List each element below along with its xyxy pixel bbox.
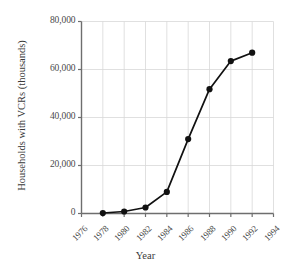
y-axis-tick-label: 60,000 <box>50 63 76 73</box>
y-axis-tick-label: 40,000 <box>50 111 76 121</box>
data-markers <box>100 50 256 217</box>
y-axis-tick-label: 20,000 <box>50 159 76 169</box>
data-point-marker <box>121 208 127 214</box>
data-line <box>103 53 252 213</box>
chart-figure: 020,00040,00060,00080,000 19761978198019… <box>0 0 291 272</box>
data-point-marker <box>100 210 106 216</box>
data-point-marker <box>142 204 148 210</box>
y-axis-title: Households with VCRs (thousands) <box>16 21 27 211</box>
data-point-marker <box>185 136 191 142</box>
data-point-marker <box>249 50 255 56</box>
data-point-marker <box>164 189 170 195</box>
series-line <box>103 53 252 213</box>
y-axis-tick-label: 80,000 <box>50 15 76 25</box>
data-point-marker <box>228 58 234 64</box>
x-axis-title: Year <box>0 250 291 261</box>
axis-ticks <box>78 22 274 218</box>
y-axis-tick-label: 0 <box>71 207 76 217</box>
data-point-marker <box>206 86 212 92</box>
horizontal-gridlines <box>82 22 274 166</box>
